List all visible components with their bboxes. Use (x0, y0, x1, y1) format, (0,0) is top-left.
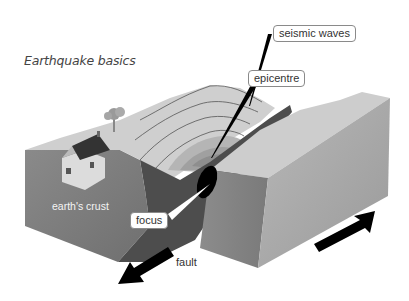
fault-label: fault (176, 256, 197, 268)
earthquake-diagram: Earthquake basics seismic waves epicentr… (0, 0, 409, 301)
seismic-waves-label: seismic waves (273, 25, 356, 42)
earths-crust-label: earth's crust (52, 200, 109, 212)
diagram-title: Earthquake basics (24, 53, 136, 68)
focus-label: focus (130, 212, 168, 229)
diagram-svg (0, 0, 409, 301)
epicentre-label: epicentre (248, 70, 305, 87)
